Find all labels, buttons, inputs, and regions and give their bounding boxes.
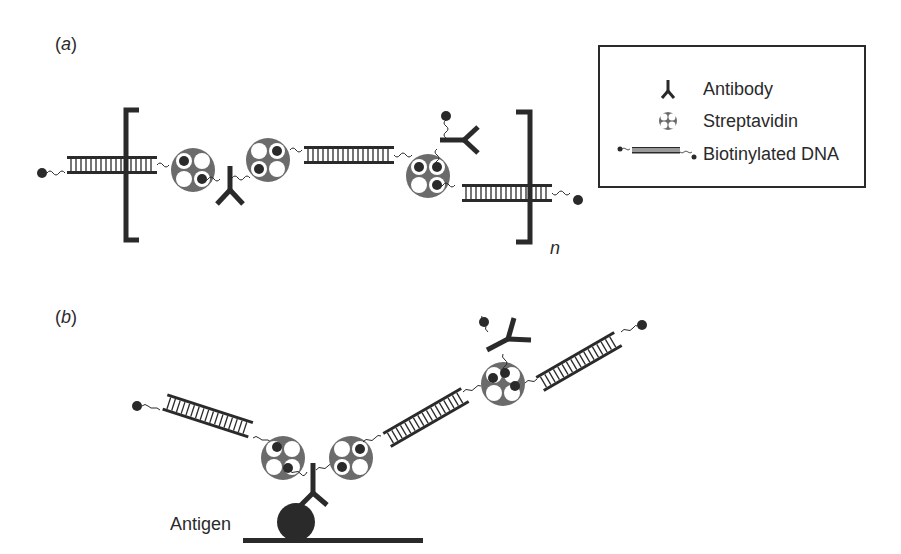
biotin-icon (637, 320, 647, 330)
biotin-icon (479, 317, 489, 327)
legend-label-biotinylated-dna: Biotinylated DNA (703, 144, 839, 164)
biotin-icon (441, 111, 451, 121)
surface (243, 538, 423, 543)
linker-icon (47, 171, 65, 175)
streptavidin-icon (246, 138, 290, 182)
dna-duplex-icon (383, 387, 470, 448)
antigen-icon (277, 503, 315, 541)
legend-streptavidin-icon (659, 112, 677, 130)
repeat-count-label: n (550, 238, 560, 258)
streptavidin-icon (406, 154, 450, 198)
figure: (a) (0, 0, 901, 554)
antigen-label: Antigen (170, 514, 231, 534)
right-bracket (516, 112, 530, 242)
panel-b-label: (b) (55, 307, 77, 327)
streptavidin-icon (261, 436, 305, 480)
dna-duplex-icon (462, 184, 552, 202)
dna-duplex-icon (304, 146, 394, 164)
antibody-icon (300, 463, 327, 506)
streptavidin-icon (171, 148, 215, 192)
dna-duplex-icon (536, 331, 623, 392)
legend-label-streptavidin: Streptavidin (703, 111, 798, 131)
legend-label-antibody: Antibody (703, 79, 773, 99)
panel-a-label: (a) (55, 34, 77, 54)
legend: Antibody Streptavidin Biotinylated DNA (599, 46, 865, 187)
antibody-icon (487, 318, 531, 350)
biotin-icon (573, 195, 583, 205)
panel-b: (b) Antigen (55, 307, 647, 543)
biotin-icon (37, 168, 47, 178)
antibody-icon (440, 127, 478, 153)
dna-duplex-icon (67, 156, 157, 174)
antibody-icon (217, 166, 243, 204)
streptavidin-icon (329, 436, 373, 480)
dna-duplex-icon (162, 393, 253, 438)
panel-a: (a) (37, 34, 583, 258)
biotin-icon (132, 401, 142, 411)
left-bracket (126, 110, 139, 240)
